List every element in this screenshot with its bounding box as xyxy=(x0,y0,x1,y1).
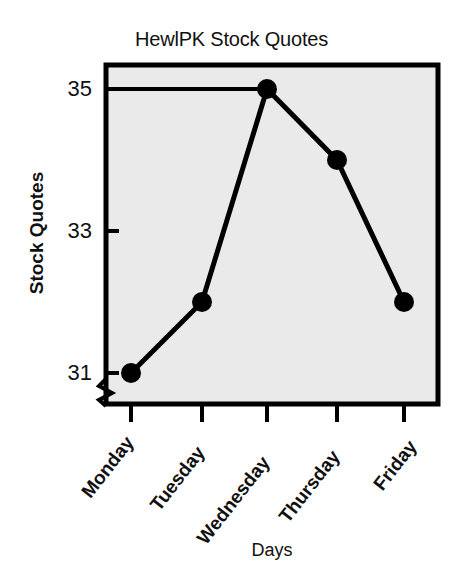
data-point-tuesday xyxy=(192,292,212,312)
data-point-monday xyxy=(121,363,141,383)
data-point-friday xyxy=(394,292,414,312)
plot-area-svg xyxy=(0,0,463,586)
data-point-wednesday xyxy=(257,79,277,99)
data-point-thursday xyxy=(327,150,347,170)
plot-background xyxy=(106,65,438,404)
x-tick-marks xyxy=(131,404,404,422)
chart-figure: HewlPK Stock Quotes Stock Quotes Days 35… xyxy=(0,0,463,586)
